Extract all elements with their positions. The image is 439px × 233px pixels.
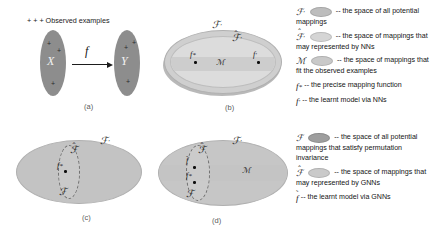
point-f-star: [64, 170, 67, 173]
label-f-prime-outer: ℱ′: [232, 135, 242, 146]
codomain-label-y: Y: [121, 54, 128, 69]
label-f-prime-point: f′: [253, 50, 257, 59]
panel-label-b: (b): [225, 103, 234, 112]
legend-swatch-f-hat-gnn: [308, 168, 330, 178]
label-m-band: ℳ: [216, 58, 225, 67]
legend-symbol-f-invariant: ℱ: [296, 133, 305, 143]
legend-top: ℱ′ -- the space of all potential mapping…: [296, 6, 436, 108]
panel-label-d: (d): [212, 216, 221, 225]
outer-ellipse-f-prime: [158, 140, 288, 206]
legend-text-f-learnt-gnn: -- the learnt model via GNNs: [301, 194, 391, 202]
observed-examples-annotation: + + + Observed examples: [27, 16, 110, 25]
point-f-prime: [257, 61, 260, 64]
domain-label-x: X: [47, 54, 54, 69]
panel-a: + + + Observed examples X + + + Y + + + …: [14, 6, 154, 114]
legend-row-f-learnt-nn: f′ -- the learnt model via NNs: [296, 95, 436, 107]
legend-text-f-star: -- the precise mapping function: [304, 82, 401, 90]
legend-row-m: ℳ -- the space of mappings that fit the …: [296, 55, 436, 77]
panel-c: ℱ′ ℱ̂ ℱ f* (c): [14, 128, 144, 228]
panel-b: ℱ̂′ ℱ̂′ ℳ f* f′ (b): [160, 14, 284, 114]
legend-symbol-f-hat-gnn: ℱ̂: [296, 168, 305, 178]
band-m-region: [159, 165, 287, 181]
legend-symbol-m: ℳ: [296, 56, 306, 66]
legend-swatch-f-prime: [310, 7, 332, 17]
panel-label-c: (c): [82, 213, 91, 222]
legend-row-f-prime: ℱ′ -- the space of all potential mapping…: [296, 6, 436, 29]
plus-marker: +: [51, 80, 55, 87]
point-f-tilde: [193, 166, 196, 169]
label-f-base: ℱ: [186, 188, 194, 199]
panel-label-a: (a): [84, 102, 93, 111]
label-f-tilde-point: f˜: [186, 156, 188, 165]
legend-symbol-f-hat-prime: ℱ̂′: [296, 32, 307, 42]
legend-row-f-hat-prime: ℱ̂′ -- the space of mappings that may re…: [296, 31, 436, 54]
legend-row-f-invariant: ℱ -- the space of all potential mappings…: [296, 132, 436, 164]
figure-canvas: + + + Observed examples X + + + Y + + + …: [0, 0, 439, 233]
plus-marker: +: [124, 44, 128, 51]
legend-text-f-learnt-nn: -- the learnt model via NNs: [302, 96, 386, 104]
legend-row-f-hat-gnn: ℱ̂ -- the space of mappings that may rep…: [296, 167, 436, 189]
point-f-star: [193, 181, 196, 184]
legend-swatch-f-hat-prime: [310, 32, 332, 42]
mapping-arrow-line: [72, 64, 108, 65]
label-f-hat: ℱ̂: [198, 144, 206, 155]
mapping-function-label: f: [85, 44, 88, 59]
label-f-star-point: f*: [57, 161, 63, 170]
plus-marker: +: [132, 39, 136, 46]
legend-row-f-star: f* -- the precise mapping function: [296, 80, 436, 92]
legend-symbol-f-prime: ℱ′: [296, 7, 307, 17]
legend-bottom: ℱ -- the space of all potential mappings…: [296, 132, 436, 206]
plus-marker: +: [126, 78, 130, 85]
legend-swatch-m: [311, 56, 333, 66]
label-m-band: ℳ: [242, 166, 251, 175]
label-f-base: ℱ: [59, 186, 67, 197]
label-f-star-point: f*: [190, 50, 196, 59]
label-f-hat: ℱ̂: [70, 144, 78, 155]
point-f-star: [194, 61, 197, 64]
plus-marker: +: [57, 47, 61, 54]
label-f-prime-outer: ℱ̂′: [212, 19, 222, 30]
panel-d: ℱ′ ℱ̂ ℱ ℳ f˜ f* (d): [150, 128, 290, 228]
legend-swatch-f-invariant: [308, 133, 330, 143]
label-f-star-point: f*: [186, 171, 192, 180]
mapping-arrow-head: [107, 62, 113, 68]
plus-marker: +: [47, 40, 51, 47]
label-f-prime-outer: ℱ′: [100, 135, 110, 146]
label-f-hat-prime-inner: ℱ̂′: [232, 32, 242, 43]
legend-row-f-learnt-gnn: f˜ -- the learnt model via GNNs: [296, 192, 436, 204]
